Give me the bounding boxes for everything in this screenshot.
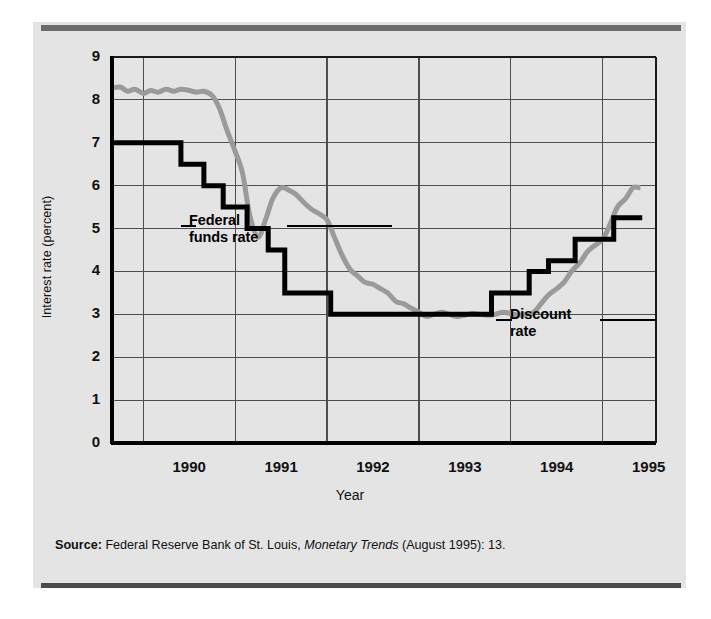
x-tick-label: 1993 <box>425 458 505 475</box>
y-tick-label: 3 <box>76 304 100 321</box>
source-text-part1: Federal Reserve Bank of St. Louis, <box>102 538 304 552</box>
annotation-discount-rate: Discountrate <box>510 306 571 340</box>
y-tick-label: 5 <box>76 219 100 236</box>
chart-series-lines <box>112 87 642 317</box>
y-axis-title: Interest rate (percent) <box>40 157 54 357</box>
x-tick-label: 1995 <box>609 458 689 475</box>
figure-page: Interest rate (percent) Year 0123456789 … <box>0 0 711 619</box>
y-tick-label: 9 <box>76 47 100 64</box>
x-tick-label: 1991 <box>241 458 321 475</box>
x-tick-label: 1994 <box>517 458 597 475</box>
y-tick-label: 7 <box>76 133 100 150</box>
x-axis-title: Year <box>290 487 410 503</box>
source-label: Source: <box>55 538 102 552</box>
y-tick-label: 4 <box>76 261 100 278</box>
annotation-federal-funds-rate: Federalfunds rate <box>189 212 258 246</box>
chart-plot-area: Interest rate (percent) Year 0123456789 … <box>0 0 711 619</box>
series-line-federal-funds-rate <box>112 87 640 317</box>
y-tick-label: 0 <box>76 433 100 450</box>
x-tick-label: 1992 <box>333 458 413 475</box>
line-chart-svg <box>0 0 711 619</box>
y-tick-label: 1 <box>76 390 100 407</box>
y-tick-label: 2 <box>76 347 100 364</box>
y-tick-label: 6 <box>76 176 100 193</box>
y-tick-label: 8 <box>76 90 100 107</box>
x-tick-label: 1990 <box>149 458 229 475</box>
source-caption: Source: Federal Reserve Bank of St. Loui… <box>55 538 506 552</box>
source-publication-title: Monetary Trends <box>304 538 398 552</box>
source-text-part2: (August 1995): 13. <box>398 538 505 552</box>
